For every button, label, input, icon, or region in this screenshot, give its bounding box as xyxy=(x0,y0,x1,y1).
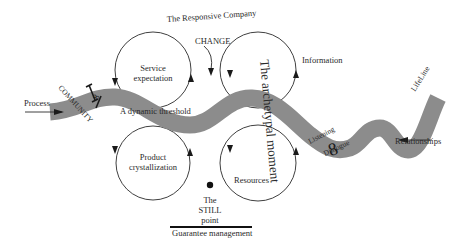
arrow-up-icon xyxy=(293,70,299,78)
still-point-line1: The xyxy=(190,195,230,205)
still-point-label: The STILL point xyxy=(190,195,230,225)
archetypal-moment-label: The archetypal moment xyxy=(257,59,283,184)
information-label: Information xyxy=(302,55,343,65)
service-expectation-label: Service expectation xyxy=(123,63,183,83)
resources-label: Resources xyxy=(234,175,269,185)
service-line1: Service xyxy=(123,63,183,73)
lifeline-band xyxy=(50,97,438,150)
product-line2: crystallization xyxy=(118,162,188,172)
process-label: Process xyxy=(24,98,50,108)
still-point-line3: point xyxy=(190,215,230,225)
still-point-dot xyxy=(207,182,213,188)
dynamic-threshold-label: A dynamic threshold xyxy=(120,106,191,116)
responsive-company-diagram: The Responsive Company COMMUNITY The arc… xyxy=(0,0,462,248)
arrow-down-icon xyxy=(227,70,233,78)
resources-cycle xyxy=(220,125,296,201)
guarantee-management-label: Guarantee management xyxy=(172,228,252,238)
lifeline-label: LifeLine xyxy=(409,64,432,93)
arrow-down-icon xyxy=(227,145,233,153)
title-text: The Responsive Company xyxy=(166,8,257,24)
relationships-label: Relationships xyxy=(395,136,441,146)
service-line2: expectation xyxy=(123,73,183,83)
arrow-up-icon xyxy=(188,74,194,82)
change-arrow-icon xyxy=(204,46,212,70)
change-label: CHANGE xyxy=(195,36,230,46)
product-crystallization-label: Product crystallization xyxy=(118,152,188,172)
product-line1: Product xyxy=(118,152,188,162)
still-point-line2: STILL xyxy=(190,205,230,215)
change-arrowhead-icon xyxy=(208,68,214,76)
